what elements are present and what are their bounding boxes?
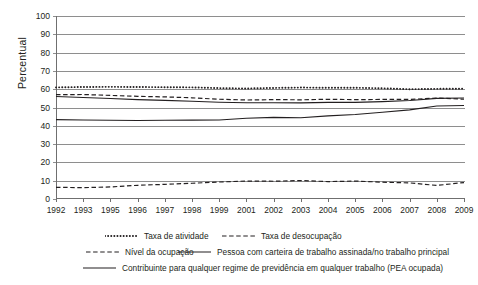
series-line — [56, 181, 464, 188]
y-tick-label: 30 — [28, 140, 50, 149]
legend-swatch-dotted-icon — [105, 231, 138, 241]
y-tick-label: 70 — [28, 67, 50, 76]
legend-item[interactable]: Taxa de atividade — [105, 228, 209, 244]
y-tick-label: 80 — [28, 49, 50, 58]
y-tick-label: 0 — [28, 195, 50, 204]
legend-label: Pessoa com carteira de trabalho assinada… — [217, 248, 449, 256]
legend-label: Taxa de desocupação — [261, 232, 342, 240]
legend-row: Nível da ocupaçãoPessoa com carteira de … — [0, 244, 473, 260]
y-tick-label: 40 — [28, 122, 50, 131]
legend-label: Taxa de atividade — [144, 232, 209, 240]
y-tick-label: 20 — [28, 158, 50, 167]
legend-item[interactable]: Pessoa com carteira de trabalho assinada… — [178, 244, 449, 260]
series-line — [56, 87, 464, 89]
legend-item[interactable]: Taxa de desocupação — [222, 228, 342, 244]
legend-swatch-solid-icon — [83, 263, 116, 273]
legend-row: Contribuinte para qualquer regime de pre… — [0, 260, 473, 276]
series-line — [56, 105, 464, 120]
y-tick-label: 50 — [28, 104, 50, 113]
y-tick-label: 90 — [28, 30, 50, 39]
y-tick-label: 60 — [28, 85, 50, 94]
series-lines — [56, 16, 465, 199]
y-tick-label: 100 — [28, 12, 50, 21]
legend-swatch-dashed-icon — [86, 247, 119, 257]
plot-area: 0102030405060708090100 19921993199519961… — [56, 16, 465, 199]
legend-swatch-dashed-icon — [222, 231, 255, 241]
chart-legend: Taxa de atividadeTaxa de desocupaçãoNíve… — [0, 228, 473, 276]
legend-item[interactable]: Contribuinte para qualquer regime de pre… — [83, 260, 443, 276]
legend-row: Taxa de atividadeTaxa de desocupação — [0, 228, 473, 244]
y-axis-title: Percentual — [16, 8, 28, 118]
y-tick-label: 10 — [28, 177, 50, 186]
series-line — [56, 97, 464, 103]
legend-label: Contribuinte para qualquer regime de pre… — [122, 264, 443, 272]
legend-swatch-solid-icon — [178, 247, 211, 257]
x-tick-label: 2009 — [444, 206, 478, 214]
